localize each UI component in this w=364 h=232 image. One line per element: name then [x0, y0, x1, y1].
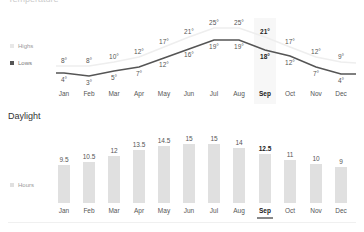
month-tab-oct[interactable]: Oct [285, 207, 295, 214]
month-tab-feb[interactable]: Feb [83, 207, 94, 214]
high-label: 21° [184, 28, 194, 35]
low-label: 5° [111, 74, 117, 81]
daylight-bar[interactable] [108, 156, 120, 203]
highs-line [56, 28, 356, 66]
month-tab-jul[interactable]: Jul [210, 90, 218, 97]
hours-label: 14.5 [158, 137, 171, 144]
low-label: 18° [260, 53, 270, 60]
month-tab-oct[interactable]: Oct [285, 90, 295, 97]
daylight-bar[interactable] [83, 162, 95, 203]
low-label: 4° [61, 76, 67, 83]
month-tab-sep[interactable]: Sep [259, 207, 271, 214]
month-tab-jun[interactable]: Jun [184, 207, 194, 214]
lows-line [56, 40, 356, 76]
month-tab-nov[interactable]: Nov [310, 207, 322, 214]
month-tab-nov[interactable]: Nov [310, 90, 322, 97]
daylight-bar[interactable] [310, 164, 322, 204]
hours-label: 11 [287, 151, 294, 158]
hours-label: 10 [312, 155, 319, 162]
month-tab-aug[interactable]: Aug [233, 207, 245, 214]
daylight-bar[interactable] [335, 167, 347, 203]
high-label: 12° [311, 48, 321, 55]
month-tab-aug[interactable]: Aug [233, 90, 245, 97]
hours-label: 10.5 [83, 153, 96, 160]
month-tab-dec[interactable]: Dec [335, 207, 347, 214]
high-label: 25° [209, 19, 219, 26]
hours-label: 12.5 [259, 145, 272, 152]
high-label: 12° [134, 48, 144, 55]
month-tab-feb[interactable]: Feb [83, 90, 94, 97]
high-label: 8° [86, 57, 92, 64]
daylight-bar[interactable] [284, 160, 296, 203]
low-label: 3° [86, 79, 92, 86]
high-label: 9° [338, 53, 344, 60]
legend-hours-label: Hours [18, 182, 34, 188]
daylight-bar[interactable] [158, 146, 170, 203]
hours-label: 15 [185, 135, 192, 142]
high-label: 17° [159, 38, 169, 45]
low-label: 16° [184, 51, 194, 58]
month-tab-apr[interactable]: Apr [134, 207, 144, 214]
low-label: 12° [285, 59, 295, 66]
month-tab-sep[interactable]: Sep [259, 90, 271, 97]
hours-label: 14 [235, 139, 242, 146]
month-tab-jul[interactable]: Jul [210, 207, 218, 214]
high-label: 25° [234, 19, 244, 26]
bottom-divider [8, 222, 356, 223]
hours-label: 13.5 [133, 141, 146, 148]
hours-swatch-icon [10, 183, 14, 187]
low-label: 19° [209, 43, 219, 50]
high-label: 17° [285, 38, 295, 45]
daylight-title: Daylight [8, 111, 41, 121]
low-label: 4° [338, 77, 344, 84]
month-tab-jan[interactable]: Jan [59, 207, 69, 214]
daylight-bar[interactable] [58, 165, 70, 203]
month-tab-dec[interactable]: Dec [335, 90, 347, 97]
month-tab-apr[interactable]: Apr [134, 90, 144, 97]
low-label: 19° [234, 43, 244, 50]
high-label: 10° [109, 53, 119, 60]
hours-label: 9.5 [59, 156, 68, 163]
low-label: 7° [313, 70, 319, 77]
daylight-bar[interactable] [233, 148, 245, 203]
high-label: 21° [260, 28, 270, 35]
daylight-bar[interactable] [183, 144, 195, 203]
hours-label: 15 [210, 135, 217, 142]
selected-month-underline [257, 217, 273, 219]
month-tab-mar[interactable]: Mar [108, 207, 119, 214]
high-label: 8° [61, 57, 67, 64]
month-tab-jan[interactable]: Jan [59, 90, 69, 97]
daylight-bar[interactable] [133, 150, 145, 203]
daylight-bar[interactable] [259, 154, 271, 203]
month-tab-jun[interactable]: Jun [184, 90, 194, 97]
low-label: 7° [136, 70, 142, 77]
low-label: 12° [159, 61, 169, 68]
daylight-bar[interactable] [208, 144, 220, 203]
hours-label: 12 [110, 147, 117, 154]
legend-hours[interactable]: Hours [10, 182, 34, 188]
hours-label: 9 [339, 158, 343, 165]
month-tab-mar[interactable]: Mar [108, 90, 119, 97]
month-tab-may[interactable]: May [158, 207, 170, 214]
month-tab-may[interactable]: May [158, 90, 170, 97]
